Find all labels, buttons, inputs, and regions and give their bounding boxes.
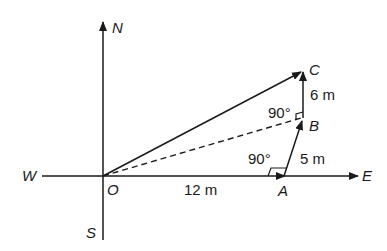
angle-a-label: 90° [248,150,271,167]
point-a-label: A [277,182,288,199]
point-o-label: O [107,181,119,198]
point-c-label: C [309,61,320,78]
angle-b-label: 90° [268,104,291,121]
west-label: W [22,167,38,184]
segment-bc-label: 6 m [310,86,335,103]
vector-diagram: N S W E O A B C 12 m 5 m 6 m 90° 90° [0,0,387,251]
north-label: N [112,19,123,36]
segment-oa-label: 12 m [184,181,217,198]
dashed-ob [103,118,301,176]
east-label: E [362,167,373,184]
segment-ab-label: 5 m [300,150,325,167]
vector-oc [103,72,301,176]
point-b-label: B [309,117,319,134]
south-label: S [86,224,96,241]
